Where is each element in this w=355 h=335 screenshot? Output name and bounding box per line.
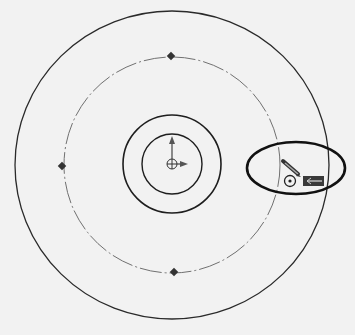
highlight-ellipse: [247, 142, 345, 194]
quadrant-point-bottom[interactable]: [170, 268, 178, 276]
construction-line-badge: [303, 176, 324, 186]
sketch-canvas[interactable]: Sketch concentric circles with construct…: [0, 0, 355, 335]
quadrant-point-top[interactable]: [167, 52, 175, 60]
concentric-snap-icon: [285, 176, 296, 187]
pencil-icon: [283, 161, 301, 177]
quadrant-point-left[interactable]: [58, 162, 66, 170]
origin-icon: [167, 136, 188, 169]
